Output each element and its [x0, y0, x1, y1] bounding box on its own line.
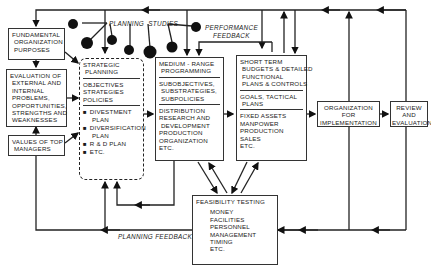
- box-title: MEDIUM - RANGE: [159, 60, 220, 67]
- box-title: SHORT TERM: [240, 58, 303, 65]
- box-text: RESEARCH AND: [159, 114, 220, 121]
- box-text: FACILITIES: [196, 216, 274, 223]
- bullet-item: ETC.: [83, 148, 140, 156]
- medium-range-programming-box: MEDIUM - RANGE PROGRAMMING SUBOBJECTIVES…: [155, 57, 224, 161]
- box-text: PERSONNEL: [196, 223, 274, 230]
- box-text: TIMING: [196, 238, 274, 245]
- divider: [159, 104, 220, 105]
- box-text: STRENGTHS AND: [10, 109, 63, 116]
- box-text: SUBOBJECTIVES,: [159, 80, 220, 87]
- strategic-planning-box: STRATEGIC PLANNING OBJECTIVES STRATEGIES…: [79, 58, 144, 180]
- box-text: POLICIES: [83, 96, 140, 103]
- box-text: INTERNAL: [10, 87, 63, 94]
- box-text: PRODUCTION: [159, 129, 220, 136]
- feasibility-testing-box: FEASIBILITY TESTING MONEY FACILITIES PER…: [192, 195, 278, 265]
- box-text: SALES: [240, 135, 303, 142]
- box-text: GOALS, TACTICAL: [240, 93, 303, 100]
- box-title: STRATEGIC: [83, 61, 140, 68]
- box-text: EVALUATION: [392, 119, 426, 126]
- planning-feedback-label: PLANNING FEEDBACK: [118, 233, 192, 240]
- box-title: PROGRAMMING: [159, 67, 220, 74]
- bullet-item: DIVERSIFICATION: [83, 124, 140, 132]
- box-title: FUNCTIONAL: [240, 73, 303, 80]
- box-title: PLANS & CONTROLS: [240, 80, 303, 87]
- box-text: MANAGEMENT: [196, 231, 274, 238]
- performance-feedback-label-2: FEEDBACK: [213, 32, 250, 39]
- box-text: ETC.: [159, 144, 220, 151]
- divider: [83, 78, 140, 79]
- box-text: OBJECTIVES: [83, 81, 140, 88]
- box-text: SUBPOLICIES: [159, 95, 220, 102]
- performance-feedback-label-1: PERFORMANCE: [205, 24, 258, 31]
- box-text: MONEY: [196, 208, 274, 215]
- box-text: PURPOSES: [12, 46, 61, 53]
- evaluation-box: EVALUATION OF EXTERNAL AND INTERNAL PROB…: [6, 69, 67, 127]
- short-term-budgets-box: SHORT TERM BUDGETS & DETAILED FUNCTIONAL…: [236, 55, 307, 161]
- box-text: IMPLEMENTATION: [319, 119, 378, 126]
- review-evaluation-box: REVIEW AND EVALUATION: [390, 101, 428, 127]
- bullet-item: DIVESTMENT: [83, 108, 140, 116]
- box-title: FEASIBILITY TESTING: [196, 198, 274, 205]
- box-text: ORGANIZATION: [12, 38, 61, 45]
- box-text: ETC.: [240, 142, 303, 149]
- box-text: SUBSTRATEGIES,: [159, 87, 220, 94]
- box-text: DEVELOPMENT: [159, 122, 220, 129]
- box-text: ETC.: [196, 245, 274, 252]
- box-text: DISTRIBUTION: [159, 107, 220, 114]
- box-text: EVALUATION OF: [10, 72, 63, 79]
- divider: [83, 105, 140, 106]
- divider: [159, 77, 220, 78]
- box-text: PLAN: [83, 116, 140, 123]
- box-text: PROBLEMS,: [10, 94, 63, 101]
- box-text: MANPOWER: [240, 120, 303, 127]
- box-text: FOR: [319, 111, 378, 118]
- divider: [240, 90, 303, 91]
- box-text: PRODUCTION: [240, 127, 303, 134]
- box-text: PLAN: [83, 132, 140, 139]
- box-text: FUNDAMENTAL: [12, 31, 61, 38]
- box-text: VALUES OF TOP: [12, 138, 61, 145]
- box-text: MANAGERS: [12, 145, 61, 152]
- box-title: BUDGETS & DETAILED: [240, 65, 303, 72]
- planning-studies-label: PLANNING STUDIES: [109, 20, 178, 27]
- values-top-managers-box: VALUES OF TOP MANAGERS: [8, 135, 65, 156]
- box-text: PLANS: [240, 100, 303, 107]
- organization-implementation-box: ORGANIZATION FOR IMPLEMENTATION: [317, 101, 380, 127]
- bullet-item: R & D PLAN: [83, 140, 140, 148]
- box-text: FIXED ASSETS: [240, 112, 303, 119]
- box-title: PLANNING: [83, 68, 140, 75]
- box-text: OPPORTUNITIES,: [10, 102, 63, 109]
- box-text: REVIEW: [392, 104, 426, 111]
- box-text: EXTERNAL AND: [10, 79, 63, 86]
- fundamental-purposes-box: FUNDAMENTAL ORGANIZATION PURPOSES: [8, 28, 65, 60]
- box-text: WEAKNESSES: [10, 116, 63, 123]
- box-text: ORGANIZATION: [159, 137, 220, 144]
- box-text: ORGANIZATION: [319, 104, 378, 111]
- box-text: AND: [392, 111, 426, 118]
- box-text: STRATEGIES: [83, 88, 140, 95]
- divider: [240, 109, 303, 110]
